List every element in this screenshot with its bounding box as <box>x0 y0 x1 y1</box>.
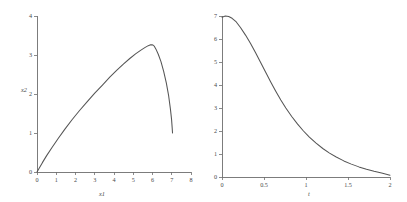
x-tick-label: 2 <box>388 181 391 188</box>
left-y-axis-title: x2 <box>20 86 28 93</box>
left-curve-trajectory <box>37 45 173 172</box>
left-x-axis-title: x1 <box>98 190 105 197</box>
right-y-tick-labels: 01234567 <box>214 12 217 180</box>
y-tick-label: 6 <box>214 35 217 42</box>
x-tick-label: 7 <box>170 176 173 183</box>
y-tick-label: 3 <box>29 51 32 58</box>
y-tick-label: 3 <box>214 104 217 111</box>
chart-left-svg: 012345678 01234 x1 x2 <box>0 0 204 202</box>
x-tick-label: 6 <box>151 176 154 183</box>
x-tick-label: 1 <box>55 176 58 183</box>
x-tick-label: 0 <box>220 181 223 188</box>
x-tick-label: 4 <box>112 176 115 183</box>
left-x-tick-labels: 012345678 <box>35 176 192 183</box>
y-tick-label: 7 <box>214 12 217 19</box>
figure-two-panel-plot: 012345678 01234 x1 x2 00.511.52 01234567… <box>0 0 407 202</box>
y-tick-label: 0 <box>29 168 32 175</box>
right-curve-decay <box>222 16 390 175</box>
y-tick-label: 2 <box>29 90 32 97</box>
y-tick-label: 4 <box>29 12 32 19</box>
y-tick-label: 2 <box>214 127 217 134</box>
y-tick-label: 1 <box>214 150 217 157</box>
x-tick-label: 0 <box>35 176 38 183</box>
chart-panel-left: 012345678 01234 x1 x2 <box>0 0 204 202</box>
y-tick-label: 4 <box>214 81 217 88</box>
chart-panel-right: 00.511.52 01234567 t <box>204 0 407 202</box>
x-tick-label: 1.5 <box>344 181 352 188</box>
left-y-tick-labels: 01234 <box>29 12 32 175</box>
x-tick-label: 0.5 <box>260 181 268 188</box>
chart-right-svg: 00.511.52 01234567 t <box>204 0 407 202</box>
x-tick-label: 2 <box>74 176 77 183</box>
y-tick-label: 5 <box>214 58 217 65</box>
left-axes <box>34 16 191 175</box>
x-tick-label: 3 <box>93 176 96 183</box>
right-x-axis-title: t <box>308 190 310 197</box>
right-x-tick-labels: 00.511.52 <box>220 181 391 188</box>
right-axes <box>219 16 390 180</box>
x-tick-label: 8 <box>189 176 192 183</box>
y-tick-label: 0 <box>214 173 217 180</box>
x-tick-label: 5 <box>132 176 135 183</box>
y-tick-label: 1 <box>29 129 32 136</box>
x-tick-label: 1 <box>304 181 307 188</box>
